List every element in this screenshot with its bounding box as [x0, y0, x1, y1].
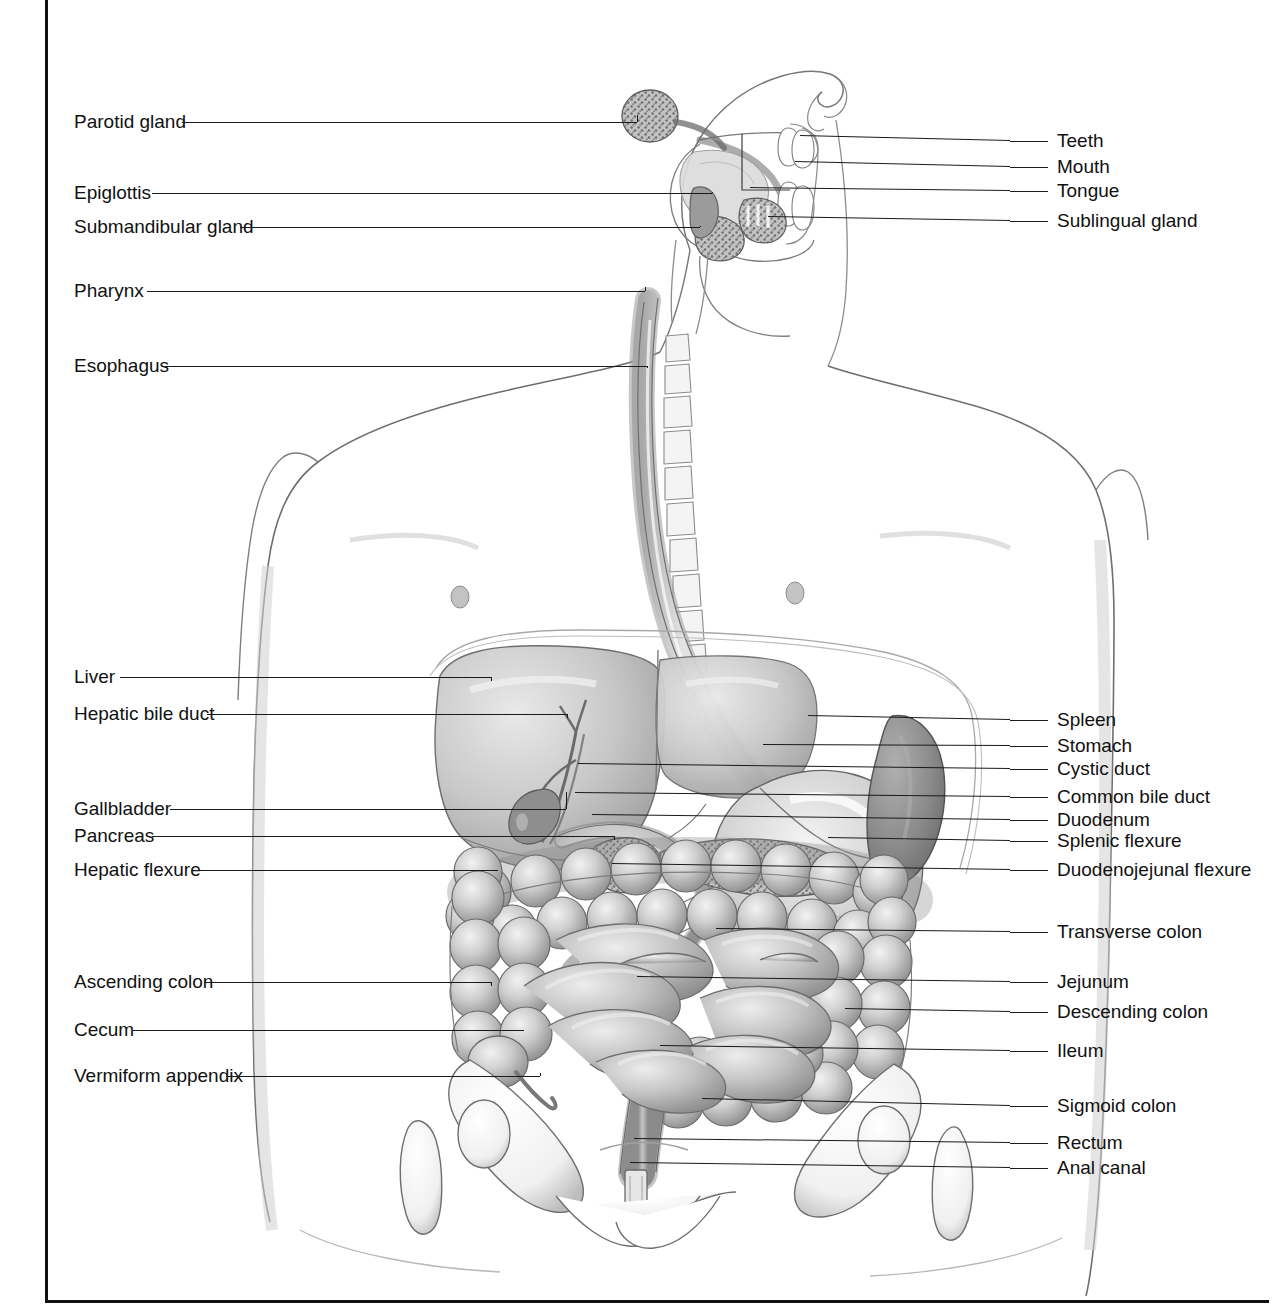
leader-parotid-gland	[182, 122, 637, 123]
leader-ileum	[1010, 1051, 1048, 1052]
label-vermiform-appendix: Vermiform appendix	[74, 1066, 243, 1085]
label-jejunum: Jejunum	[1057, 972, 1129, 991]
leader-duodenum	[1010, 820, 1048, 821]
leader-cystic-duct	[1010, 769, 1048, 770]
leader-spleen	[1010, 720, 1048, 721]
leader-hepatic-bile-duct	[207, 714, 568, 715]
leader-mouth	[1010, 167, 1048, 168]
leader-duodenojejunal-flexure	[1010, 870, 1048, 871]
leader-tongue	[1010, 191, 1048, 192]
label-descending-colon: Descending colon	[1057, 1002, 1208, 1021]
leader-splenic-flexure	[1010, 841, 1048, 842]
label-esophagus: Esophagus	[74, 356, 169, 375]
label-rectum: Rectum	[1057, 1133, 1122, 1152]
label-spleen: Spleen	[1057, 710, 1116, 729]
leader-sigmoid-colon	[1010, 1106, 1048, 1107]
leader-tip-pharynx	[645, 287, 646, 291]
label-submandibular-gland: Submandibular gland	[74, 217, 254, 236]
leader-jejunum	[1010, 982, 1048, 983]
label-pharynx: Pharynx	[74, 281, 144, 300]
leader-vermiform-appendix	[226, 1076, 540, 1077]
label-stomach: Stomach	[1057, 736, 1132, 755]
leader-common-bile-duct	[1010, 797, 1048, 798]
leader-sublingual-gland	[1010, 221, 1048, 222]
leader-epiglottis	[152, 193, 712, 194]
label-sigmoid-colon: Sigmoid colon	[1057, 1096, 1176, 1115]
leader-tip-pancreas	[614, 836, 615, 840]
label-tongue: Tongue	[1057, 181, 1119, 200]
label-ileum: Ileum	[1057, 1041, 1103, 1060]
leader-transverse-colon	[1010, 932, 1048, 933]
label-common-bile-duct: Common bile duct	[1057, 787, 1210, 806]
leader-tip-esophagus	[647, 366, 648, 368]
label-duodenum: Duodenum	[1057, 810, 1150, 829]
label-duodenojejunal-flexure: Duodenojejunal flexure	[1057, 860, 1251, 879]
leader-tip-parotid-gland	[637, 115, 638, 122]
label-teeth: Teeth	[1057, 131, 1103, 150]
label-transverse-colon: Transverse colon	[1057, 922, 1202, 941]
leader-rectum	[1010, 1143, 1048, 1144]
label-mouth: Mouth	[1057, 157, 1110, 176]
leader-pancreas	[152, 836, 615, 837]
figure-page: Parotid glandEpiglottisSubmandibular gla…	[0, 0, 1278, 1316]
label-hepatic-flexure: Hepatic flexure	[74, 860, 201, 879]
label-splenic-flexure: Splenic flexure	[1057, 831, 1182, 850]
leader-anal-canal	[1010, 1168, 1048, 1169]
label-liver: Liver	[74, 667, 115, 686]
leader-submandibular-gland	[240, 227, 700, 228]
label-gallbladder: Gallbladder	[74, 799, 171, 818]
label-epiglottis: Epiglottis	[74, 183, 151, 202]
leader-esophagus	[165, 366, 648, 367]
leader-liver	[120, 677, 492, 678]
leader-tip-vermiform-appendix	[540, 1073, 541, 1076]
leader-ascending-colon	[204, 982, 492, 983]
leader-tip-hepatic-bile-duct	[567, 714, 568, 718]
leader-pharynx	[147, 291, 645, 292]
leader-cecum	[133, 1030, 524, 1031]
label-pancreas: Pancreas	[74, 826, 154, 845]
label-sublingual-gland: Sublingual gland	[1057, 211, 1198, 230]
leader-tip-ascending-colon	[491, 982, 492, 986]
label-anal-canal: Anal canal	[1057, 1158, 1146, 1177]
leader-tip-gallbladder	[566, 792, 567, 809]
label-cecum: Cecum	[74, 1020, 134, 1039]
leader-tip-liver	[491, 677, 492, 681]
leader-stomach	[1010, 746, 1048, 747]
label-hepatic-bile-duct: Hepatic bile duct	[74, 704, 214, 723]
leader-gallbladder	[170, 809, 566, 810]
leader-tip-cecum	[523, 1030, 524, 1031]
leader-descending-colon	[1010, 1012, 1048, 1013]
small-intestine	[524, 924, 839, 1113]
leader-hepatic-flexure	[192, 870, 498, 871]
leader-tip-submandibular-gland	[700, 226, 701, 227]
label-parotid-gland: Parotid gland	[74, 112, 186, 131]
leader-teeth	[1010, 141, 1048, 142]
label-cystic-duct: Cystic duct	[1057, 759, 1150, 778]
label-ascending-colon: Ascending colon	[74, 972, 213, 991]
leader-tip-epiglottis	[712, 192, 713, 193]
